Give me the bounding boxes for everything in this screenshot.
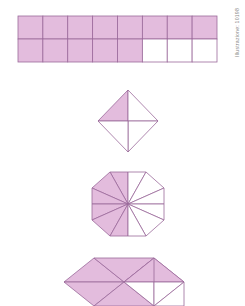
diamond-wedge-top-right bbox=[128, 90, 158, 121]
grid-cell bbox=[43, 39, 68, 62]
grid-cell bbox=[68, 16, 93, 39]
grid-cell bbox=[43, 16, 68, 39]
grid-cell bbox=[18, 16, 43, 39]
grid-cell bbox=[68, 39, 93, 62]
grid-cell bbox=[93, 39, 118, 62]
diagram-canvas: .f1 { fill: #e3bcdd; stroke: #9b6a9b; st… bbox=[0, 0, 245, 306]
grid-cell bbox=[192, 16, 217, 39]
grid-cell bbox=[142, 16, 167, 39]
grid-cell bbox=[192, 39, 217, 62]
diamond-wedge-bottom-left bbox=[98, 121, 128, 152]
rhombus-triangle bbox=[154, 258, 184, 282]
grid-cell bbox=[118, 39, 143, 62]
figure-shaded-double-rhombus bbox=[64, 258, 184, 306]
grid-cell bbox=[167, 39, 192, 62]
grid-cell bbox=[142, 39, 167, 62]
grid-cell bbox=[118, 16, 143, 39]
diamond-wedge-bottom-right bbox=[128, 121, 158, 152]
figure-shaded-diamond-quarters bbox=[98, 90, 158, 152]
grid-cell bbox=[18, 39, 43, 62]
figure-shaded-hexagon-twelfths bbox=[92, 172, 164, 236]
figure-shaded-rectangle-grid bbox=[18, 16, 217, 62]
diamond-wedge-top-left bbox=[98, 90, 128, 121]
grid-cell bbox=[93, 16, 118, 39]
grid-cell bbox=[167, 16, 192, 39]
